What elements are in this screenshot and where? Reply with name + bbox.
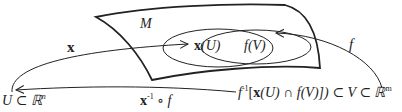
- domain-u-label: U ⊂ ℝn: [2, 94, 46, 108]
- arrow-x: [12, 44, 188, 92]
- transition-label: x-1 ∘ f: [140, 94, 171, 108]
- arrow-x-label: x: [67, 40, 75, 55]
- manifold-label: M: [140, 17, 152, 31]
- x-of-u-label: x(U): [194, 39, 220, 53]
- manifold-chart-diagram: M x(U) f(V) x f x-1 ∘ f U ⊂ ℝn f-1[x(U) …: [0, 0, 402, 112]
- arrow-f-label: f: [349, 37, 353, 52]
- arrow-transition: [16, 87, 236, 92]
- arrow-f: [276, 33, 382, 88]
- f-of-v-label: f(V): [244, 39, 266, 53]
- domain-v-label: f-1[x(U) ∩ f(V)]) ⊂ V ⊂ ℝm: [238, 86, 392, 100]
